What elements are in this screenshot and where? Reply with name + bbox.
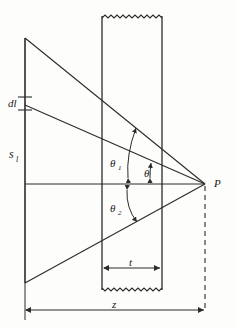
ray-dl-to-P: [25, 105, 205, 184]
theta-angle-arc: [150, 163, 151, 178]
slab-top-break-zigzag: [102, 15, 162, 18]
figure-root: dl s l θ θ 1 θ 2 t z P: [0, 0, 235, 329]
label-t: t: [129, 256, 133, 268]
label-point-P: P: [213, 177, 221, 189]
label-theta2-subscript: 2: [118, 209, 122, 217]
label-theta2: θ: [110, 202, 116, 214]
theta2-angle-arc: [127, 190, 137, 222]
label-dl: dl: [8, 97, 17, 109]
label-s-l: s: [9, 147, 14, 161]
label-theta: θ: [144, 167, 150, 179]
label-theta1-subscript: 1: [118, 164, 122, 172]
label-z: z: [111, 298, 117, 310]
label-theta1: θ: [110, 157, 116, 169]
label-s-l-subscript: l: [16, 155, 19, 164]
slab-bottom-break-zigzag: [102, 288, 162, 291]
ray-geometry-diagram: dl s l θ θ 1 θ 2 t z P: [0, 0, 235, 329]
